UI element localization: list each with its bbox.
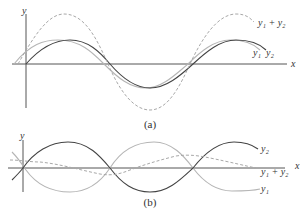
panel-a-caption: (a) (144, 118, 157, 131)
panel-b-x-label: x (294, 160, 300, 171)
panel-b-y2-label: y₂ (260, 143, 269, 154)
panel-b-y1-curve (12, 142, 260, 192)
panel-a-y-label: y (21, 5, 27, 16)
panel-b-sum-curve (10, 155, 256, 175)
panel-b-sum-label: y₁ + y₂ (260, 166, 289, 177)
panel-a-y1-label: y₁ (252, 47, 261, 58)
panel-b-caption: (b) (144, 196, 157, 209)
panel-a-x-label: x (290, 58, 296, 69)
panel-b-y-label: y (19, 130, 25, 141)
panel-b-y2-curve (12, 142, 258, 192)
interference-diagram: y x y₁ + y₂ y₁ y₂ (a) y x y₂ y₁ + y₂ y₁ … (0, 0, 308, 212)
panel-b-y1-label: y₁ (260, 183, 269, 194)
panel-a-sum-curve (18, 14, 254, 110)
panel-a-sum-label: y₁ + y₂ (257, 17, 286, 28)
panel-a: y x y₁ + y₂ y₁ y₂ (a) (12, 5, 296, 131)
panel-a-y2-label: y₂ (265, 47, 274, 58)
panel-b: y x y₂ y₁ + y₂ y₁ (b) (8, 130, 300, 209)
